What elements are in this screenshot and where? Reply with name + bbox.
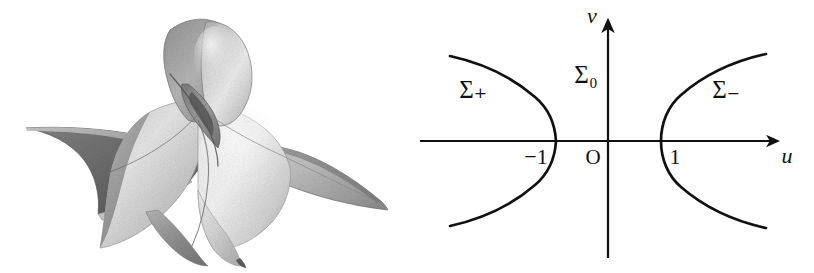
tick-label-one: 1 <box>670 144 681 169</box>
region-label-sigma-zero: Σ₀ <box>574 61 597 88</box>
surface-top-lobe-highlight <box>194 26 238 86</box>
hyperbola-diagram-svg: −1 O 1 u v Σ₊ Σ₀ Σ₋ <box>408 0 814 273</box>
figure-container: −1 O 1 u v Σ₊ Σ₀ Σ₋ <box>0 0 814 273</box>
surface-bottom-skirt-left <box>146 210 208 266</box>
u-axis-label: u <box>782 143 793 168</box>
v-axis-label: v <box>587 3 597 28</box>
origin-label: O <box>585 145 600 169</box>
region-label-sigma-minus: Σ₋ <box>712 76 740 103</box>
surface-geometry-group <box>26 19 388 268</box>
hyperbola-diagram-panel: −1 O 1 u v Σ₊ Σ₀ Σ₋ <box>408 0 814 273</box>
surface-render-svg <box>0 0 408 273</box>
region-label-sigma-plus: Σ₊ <box>459 76 487 103</box>
surface-render-panel <box>0 0 408 273</box>
tick-label-minus-one: −1 <box>524 144 547 169</box>
